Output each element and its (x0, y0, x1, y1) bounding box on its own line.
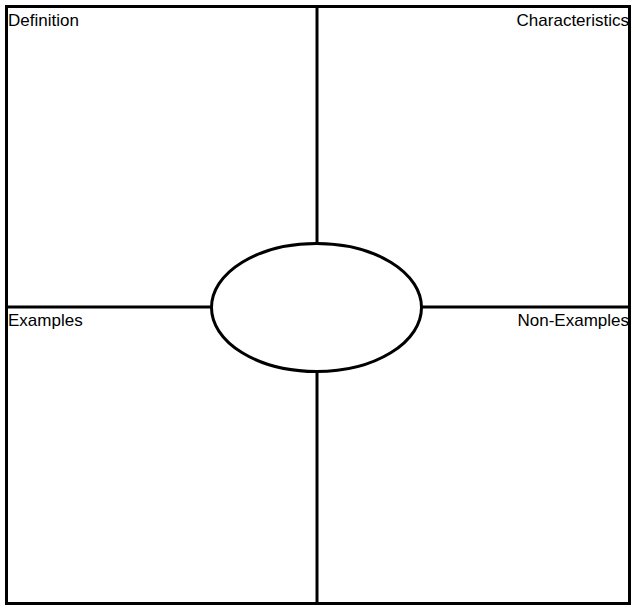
quadrant-label-characteristics: Characteristics (517, 11, 629, 30)
quadrant-label-definition: Definition (8, 11, 79, 30)
frayer-model-organizer: Definition Characteristics Examples Non-… (0, 0, 636, 611)
quadrant-label-non-examples: Non-Examples (518, 311, 630, 330)
quadrant-label-examples: Examples (8, 311, 83, 330)
center-concept-field[interactable] (210, 242, 423, 373)
